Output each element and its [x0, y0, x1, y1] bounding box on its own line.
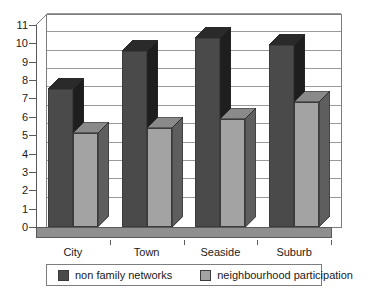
bar-side-face: [245, 108, 255, 227]
bar-top-face: [294, 91, 330, 102]
legend-item-non-family-networks: non family networks: [58, 269, 172, 281]
bar-front-face: [122, 51, 147, 227]
bar-city-series-2: [73, 133, 98, 227]
bar-front-face: [73, 133, 98, 227]
x-axis-tick-mark: [257, 240, 258, 245]
y-axis-tick-label: 0: [22, 222, 28, 233]
x-axis-tick-mark: [110, 240, 111, 245]
bar-top-face: [48, 78, 84, 89]
y-axis-tick-label: 4: [22, 148, 28, 159]
bar-top-face: [122, 40, 158, 51]
bars-layer: [36, 13, 332, 227]
y-axis-tick-label: 5: [22, 130, 28, 141]
y-axis-tick-mark: [29, 209, 36, 210]
x-axis: CityTownSeasideSuburb: [36, 240, 342, 260]
y-axis-tick-mark: [29, 80, 36, 81]
legend-label-series-2: neighbourhood participation: [217, 269, 353, 281]
bar-chart: 01234567891011 CityTownSeasideSuburb non…: [0, 0, 368, 298]
y-axis: 01234567891011: [0, 14, 36, 238]
bar-top-face: [269, 34, 305, 45]
legend-label-series-1: non family networks: [75, 269, 172, 281]
x-axis-label-suburb: Suburb: [276, 246, 311, 258]
plot-floor: [36, 227, 332, 238]
y-axis-tick-label: 9: [22, 56, 28, 67]
bar-side-face: [172, 117, 182, 227]
y-axis-tick-mark: [29, 98, 36, 99]
legend-swatch-icon-series-1: [58, 270, 69, 281]
bar-front-face: [48, 89, 73, 227]
y-axis-tick-label: 10: [16, 38, 28, 49]
y-axis-tick-mark: [29, 25, 36, 26]
y-axis-tick-mark: [29, 43, 36, 44]
y-axis-tick-mark: [29, 172, 36, 173]
bar-side-face: [319, 91, 329, 227]
x-axis-label-city: City: [63, 246, 82, 258]
bar-seaside-series-2: [220, 119, 245, 227]
y-axis-tick-label: 3: [22, 166, 28, 177]
x-axis-label-town: Town: [134, 246, 160, 258]
y-axis-tick-mark: [29, 135, 36, 136]
bar-town-series-2: [147, 128, 172, 227]
bar-suburb-series-2: [294, 102, 319, 227]
bar-top-face: [147, 117, 183, 128]
bar-front-face: [269, 45, 294, 227]
y-axis-tick-mark: [29, 227, 36, 228]
legend-swatch-icon-series-2: [200, 270, 211, 281]
legend-item-neighbourhood-participation: neighbourhood participation: [200, 269, 353, 281]
bar-suburb-series-1: [269, 45, 294, 227]
bar-front-face: [294, 102, 319, 227]
x-axis-tick-mark: [331, 240, 332, 245]
y-axis-tick-label: 8: [22, 75, 28, 86]
y-axis-tick-mark: [29, 190, 36, 191]
y-axis-tick-label: 11: [17, 20, 28, 31]
y-axis-tick-label: 1: [22, 203, 28, 214]
bar-top-face: [73, 122, 109, 133]
y-axis-tick-mark: [29, 154, 36, 155]
legend: non family networks neighbourhood partic…: [46, 264, 322, 286]
bar-front-face: [195, 38, 220, 227]
bar-top-face: [220, 108, 256, 119]
x-axis-label-seaside: Seaside: [200, 246, 240, 258]
x-axis-tick-mark: [184, 240, 185, 245]
bar-top-face: [195, 27, 231, 38]
bar-front-face: [147, 128, 172, 227]
bar-seaside-series-1: [195, 38, 220, 227]
bar-side-face: [98, 122, 108, 227]
y-axis-tick-label: 7: [22, 93, 28, 104]
bar-city-series-1: [48, 89, 73, 227]
y-axis-tick-mark: [29, 62, 36, 63]
plot-area: [36, 14, 342, 238]
bar-front-face: [220, 119, 245, 227]
y-axis-tick-label: 6: [22, 111, 28, 122]
y-axis-tick-label: 2: [22, 185, 28, 196]
bar-town-series-1: [122, 51, 147, 227]
y-axis-tick-mark: [29, 117, 36, 118]
